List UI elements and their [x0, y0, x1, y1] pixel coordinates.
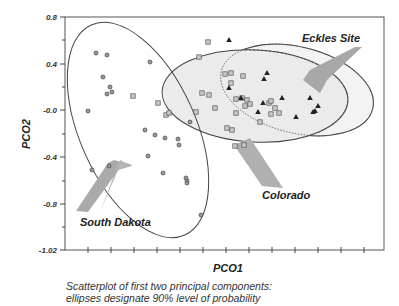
data-point-south-dakota — [163, 136, 167, 140]
figure-caption-line-1: Scatterplot of first two principal compo… — [66, 280, 272, 292]
data-point-colorado — [229, 71, 233, 75]
data-point-colorado — [225, 126, 229, 130]
data-point-colorado — [269, 99, 273, 103]
data-point-colorado — [277, 111, 281, 115]
data-point-colorado — [131, 94, 135, 98]
y-axis: 0.80.4-0.0-0.4-0.8-1.02 — [39, 13, 65, 255]
data-point-colorado — [234, 97, 238, 101]
data-point-colorado — [242, 143, 246, 147]
data-point-south-dakota — [199, 213, 203, 217]
data-point-south-dakota — [146, 154, 150, 158]
data-point-south-dakota — [177, 143, 181, 147]
data-point-south-dakota — [153, 133, 157, 137]
data-point-colorado — [194, 110, 198, 114]
y-tick-label: -1.02 — [39, 246, 58, 255]
data-point-colorado — [213, 106, 217, 110]
label-south-dakota: South Dakota — [80, 216, 151, 228]
data-point-south-dakota — [86, 109, 90, 113]
data-point-colorado — [269, 112, 273, 116]
data-point-colorado — [207, 93, 211, 97]
data-point-colorado — [230, 128, 234, 132]
data-point-colorado — [156, 101, 160, 105]
data-point-south-dakota — [188, 120, 192, 124]
data-point-colorado — [206, 40, 210, 44]
data-point-south-dakota — [105, 92, 109, 96]
y-tick-label: -0.4 — [43, 153, 57, 162]
data-point-south-dakota — [148, 60, 152, 64]
data-point-colorado — [243, 104, 247, 108]
data-point-south-dakota — [176, 137, 180, 141]
data-point-colorado — [229, 81, 233, 85]
data-point-colorado — [200, 91, 204, 95]
data-point-south-dakota — [108, 85, 112, 89]
data-point-colorado — [273, 106, 277, 110]
data-point-colorado — [223, 72, 227, 76]
data-point-colorado — [233, 144, 237, 148]
y-tick-label: 0.4 — [46, 60, 58, 69]
label-colorado: Colorado — [262, 189, 311, 201]
y-tick-label: 0.8 — [46, 13, 58, 22]
data-point-south-dakota — [105, 53, 109, 57]
y-axis-title: PCO2 — [20, 119, 32, 149]
figure-caption-line-2: ellipses designate 90% level of probabil… — [66, 292, 260, 304]
data-point-south-dakota — [143, 128, 147, 132]
data-point-south-dakota — [161, 171, 165, 175]
y-tick-label: -0.0 — [43, 106, 57, 115]
data-point-south-dakota — [185, 181, 189, 185]
data-point-south-dakota — [101, 75, 105, 79]
data-point-colorado — [234, 111, 238, 115]
x-axis-title: PCO1 — [213, 262, 243, 274]
pca-scatterplot: 0.80.4-0.0-0.4-0.8-1.02 PCO2 PCO1 South … — [0, 0, 399, 306]
data-point-south-dakota — [94, 51, 98, 55]
data-point-south-dakota — [110, 90, 114, 94]
data-point-colorado — [197, 55, 201, 59]
data-point-colorado — [167, 111, 171, 115]
data-point-south-dakota — [90, 168, 94, 172]
data-point-colorado — [248, 102, 252, 106]
data-point-south-dakota — [107, 164, 111, 168]
label-eckles-site: Eckles Site — [302, 32, 360, 44]
y-tick-label: -0.8 — [43, 200, 57, 209]
data-point-colorado — [241, 74, 245, 78]
data-point-colorado — [258, 120, 262, 124]
